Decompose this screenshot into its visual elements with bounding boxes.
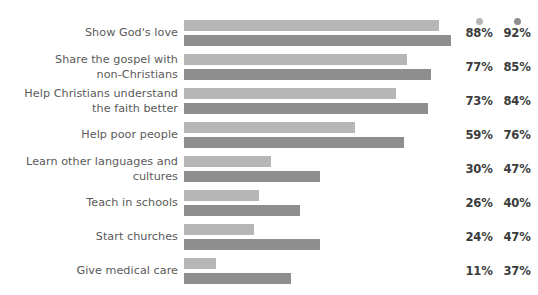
value-series-2: 47% <box>500 162 534 176</box>
bar-series-2 <box>184 239 320 250</box>
chart-rows: Show God's love88%92%Share the gospel wi… <box>0 16 538 288</box>
row-category-label: Start churches <box>0 230 178 245</box>
row-values: 24%47% <box>462 230 538 244</box>
row-category-label: Help poor people <box>0 128 178 143</box>
bar-series-2 <box>184 273 291 284</box>
value-series-2: 84% <box>500 94 534 108</box>
value-series-2: 76% <box>500 128 534 142</box>
value-series-2: 37% <box>500 264 534 278</box>
row-category-label: Give medical care <box>0 264 178 279</box>
row-category-label: Help Christians understand the faith bet… <box>0 87 178 116</box>
chart-row: Share the gospel with non-Christians77%8… <box>0 50 538 84</box>
value-series-1: 11% <box>462 264 496 278</box>
row-values: 73%84% <box>462 94 538 108</box>
row-values: 26%40% <box>462 196 538 210</box>
bar-series-1 <box>184 156 271 167</box>
bar-series-1 <box>184 54 407 65</box>
row-bars <box>184 224 464 251</box>
value-series-2: 92% <box>500 26 534 40</box>
chart-row: Learn other languages and cultures30%47% <box>0 152 538 186</box>
bar-series-2 <box>184 69 431 80</box>
value-series-2: 47% <box>500 230 534 244</box>
value-series-1: 73% <box>462 94 496 108</box>
value-series-1: 59% <box>462 128 496 142</box>
row-bars <box>184 54 464 81</box>
row-values: 30%47% <box>462 162 538 176</box>
value-series-2: 40% <box>500 196 534 210</box>
chart-row: Help Christians understand the faith bet… <box>0 84 538 118</box>
chart-row: Teach in schools26%40% <box>0 186 538 220</box>
row-bars <box>184 190 464 217</box>
bar-series-1 <box>184 224 254 235</box>
row-values: 59%76% <box>462 128 538 142</box>
row-bars <box>184 156 464 183</box>
bar-series-1 <box>184 258 216 269</box>
row-category-label: Share the gospel with non-Christians <box>0 53 178 82</box>
bar-series-2 <box>184 171 320 182</box>
row-values: 77%85% <box>462 60 538 74</box>
value-series-2: 85% <box>500 60 534 74</box>
value-series-1: 30% <box>462 162 496 176</box>
value-series-1: 88% <box>462 26 496 40</box>
row-category-label: Learn other languages and cultures <box>0 155 178 184</box>
bar-series-2 <box>184 103 428 114</box>
row-category-label: Show God's love <box>0 26 178 41</box>
row-bars <box>184 88 464 115</box>
row-values: 11%37% <box>462 264 538 278</box>
bar-series-2 <box>184 205 300 216</box>
bar-series-1 <box>184 122 355 133</box>
chart-row: Give medical care11%37% <box>0 254 538 288</box>
bar-series-2 <box>184 35 451 46</box>
value-series-1: 26% <box>462 196 496 210</box>
bar-series-1 <box>184 20 439 31</box>
chart-row: Show God's love88%92% <box>0 16 538 50</box>
bar-series-1 <box>184 190 259 201</box>
row-bars <box>184 258 464 285</box>
row-bars <box>184 20 464 47</box>
chart-row: Help poor people59%76% <box>0 118 538 152</box>
row-category-label: Teach in schools <box>0 196 178 211</box>
value-series-1: 24% <box>462 230 496 244</box>
chart-row: Start churches24%47% <box>0 220 538 254</box>
bar-series-2 <box>184 137 404 148</box>
row-bars <box>184 122 464 149</box>
bar-series-1 <box>184 88 396 99</box>
horizontal-bar-chart: Show God's love88%92%Share the gospel wi… <box>0 0 538 295</box>
row-values: 88%92% <box>462 26 538 40</box>
value-series-1: 77% <box>462 60 496 74</box>
